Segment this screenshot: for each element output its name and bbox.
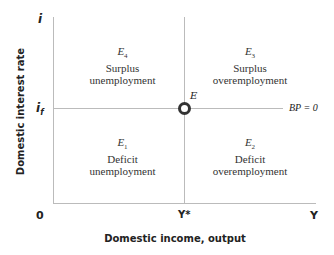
region-e3-line2: overemployment <box>200 74 300 86</box>
region-e2-line2: overemployment <box>200 165 300 177</box>
y-axis-title: Domestic interest rate <box>15 47 26 177</box>
origin-label: 0 <box>36 209 44 222</box>
y-axis <box>53 17 54 203</box>
region-e3-line1: Surplus <box>200 62 300 74</box>
point-label: E <box>190 90 197 101</box>
x-axis-title: Domestic income, output <box>90 233 260 244</box>
region-e2-label: E2 <box>200 136 300 153</box>
region-e4-line1: Surplus <box>75 62 170 74</box>
bp-label: BP = 0 <box>289 102 318 113</box>
bp-line <box>53 108 283 109</box>
region-e2: E2 Deficit overemployment <box>200 136 300 177</box>
y-ref-sub: f <box>40 108 43 117</box>
x-ref-label: Y* <box>178 209 190 220</box>
region-e1-label: E1 <box>75 136 170 153</box>
y-top-label: i <box>38 12 42 26</box>
x-axis <box>53 203 316 204</box>
region-e1-line1: Deficit <box>75 153 170 165</box>
region-e3-label: E3 <box>200 45 300 62</box>
region-e3: E3 Surplus overemployment <box>200 45 300 86</box>
region-e2-line1: Deficit <box>200 153 300 165</box>
equilibrium-point <box>178 102 191 115</box>
x-end-label: Y <box>310 209 318 222</box>
region-e1-line2: unemployment <box>75 165 170 177</box>
region-e4-line2: unemployment <box>75 74 170 86</box>
region-e4: E4 Surplus unemployment <box>75 45 170 86</box>
y-ref-label: if <box>36 101 44 117</box>
region-e1: E1 Deficit unemployment <box>75 136 170 177</box>
region-e4-label: E4 <box>75 45 170 62</box>
